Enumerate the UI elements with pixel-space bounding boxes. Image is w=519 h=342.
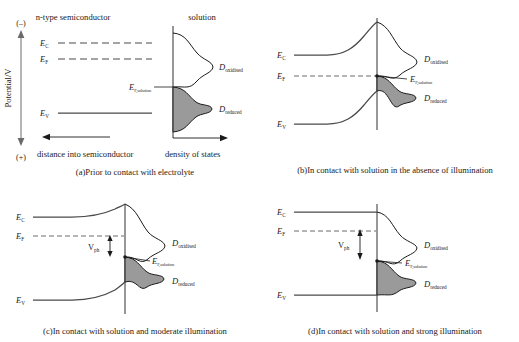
level-label-ef: EF	[39, 55, 48, 65]
label-d-oxidised: Doxidised	[423, 54, 448, 65]
x-axis-label-distance: distance into semiconductor	[37, 149, 134, 159]
photovoltage-arrow	[357, 229, 362, 260]
level-label-ev: EV	[39, 109, 49, 119]
label-d-reduced: Dreduced	[423, 93, 447, 104]
level-label-ef: EF	[276, 72, 285, 82]
dos-axis	[173, 135, 228, 141]
label-photovoltage: Vph	[88, 243, 100, 253]
sign-positive: (+)	[16, 153, 26, 162]
curve-d-reduced	[173, 87, 212, 132]
panel-b: EC EF EV EF,solution Doxidised Dreduced …	[272, 0, 519, 180]
label-d-reduced: Dreduced	[423, 279, 447, 290]
label-d-oxidised: Doxidised	[171, 238, 196, 249]
panel-a: n-type semiconductor solution (–) (+) Po…	[0, 0, 270, 180]
curve-d-oxidised	[377, 212, 417, 264]
level-line-ec	[33, 204, 125, 217]
level-label-ec: EC	[276, 208, 286, 218]
level-label-ev: EV	[276, 120, 286, 130]
caption-panel-d: (d)In contact with solution and strong i…	[308, 326, 482, 336]
potential-axis: (–) (+) Potential/V	[3, 19, 26, 162]
curve-d-oxidised	[125, 204, 165, 262]
caption-panel-b: (b)In contact with solution in the absen…	[297, 165, 493, 175]
x-axis-label-dos: density of states	[165, 149, 221, 159]
label-d-reduced: Dreduced	[218, 104, 242, 115]
panel-c: EC EF EV Vph EF,solution Doxidised Dred	[0, 182, 270, 342]
level-label-ec: EC	[39, 39, 49, 49]
level-label-ec: EC	[15, 213, 25, 223]
level-label-ef-solution: EF,solution	[128, 83, 152, 94]
figure-semiconductor-electrolyte-band-diagrams: n-type semiconductor solution (–) (+) Po…	[0, 0, 519, 342]
distance-arrow	[42, 134, 110, 140]
level-label-ef: EF	[276, 227, 285, 237]
header-solution: solution	[188, 12, 216, 22]
level-label-ec: EC	[276, 51, 286, 61]
level-label-ev: EV	[276, 291, 286, 301]
label-d-reduced: Dreduced	[171, 276, 195, 287]
label-d-oxidised: Doxidised	[423, 240, 448, 251]
header-semiconductor: n-type semiconductor	[36, 12, 111, 22]
curve-d-oxidised	[173, 33, 213, 87]
caption-panel-c: (c)In contact with solution and moderate…	[43, 326, 227, 336]
level-line-ev	[294, 91, 377, 124]
label-d-oxidised: Doxidised	[218, 62, 243, 73]
level-label-ef-solution: EF,solution	[404, 259, 428, 270]
level-label-ef: EF	[15, 232, 24, 242]
panel-d: EC EF EV Vph EF,solution Doxidised Dred	[272, 182, 519, 342]
photovoltage-arrow	[107, 235, 112, 257]
curve-d-oxidised	[377, 22, 417, 78]
level-label-ev: EV	[15, 296, 25, 306]
caption-panel-a: (a)Prior to contact with electrolyte	[76, 167, 195, 177]
level-line-ec	[294, 22, 377, 55]
potential-axis-label: Potential/V	[3, 68, 13, 108]
level-label-ef-solution: EF,solution	[151, 257, 175, 268]
level-label-ef-solution: EF,solution	[409, 75, 433, 86]
label-photovoltage: Vph	[338, 241, 350, 251]
sign-negative: (–)	[16, 19, 26, 28]
level-line-ev	[33, 282, 125, 300]
